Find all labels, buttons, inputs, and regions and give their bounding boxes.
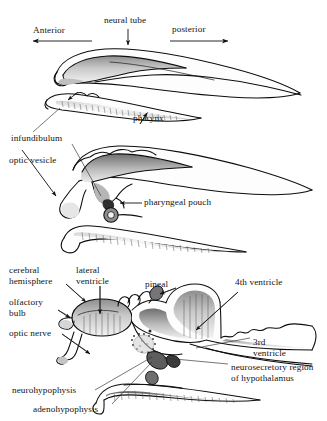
label-3rd-ventricle-line1: 3rd xyxy=(253,337,266,348)
label-neurosecretory-line1: neurosecretory region xyxy=(231,362,313,373)
label-cerebral-hemisphere-line2: hemisphere xyxy=(9,276,52,287)
label-optic-vesicle: optic vesicle xyxy=(9,155,56,166)
label-optic-nerve: optic nerve xyxy=(9,328,51,339)
label-lateral-ventricle-line1: lateral xyxy=(76,265,100,276)
label-neurosecretory-line2: of hypothalamus xyxy=(231,373,294,384)
label-pineal: pineal xyxy=(145,279,168,290)
label-posterior: posterior xyxy=(172,24,206,35)
label-neurohypophysis: neurohypophysis xyxy=(12,385,76,396)
label-cerebral-hemisphere-line1: cerebral xyxy=(9,265,39,276)
label-pharyngeal-pouch: pharyngeal pouch xyxy=(144,197,211,208)
panel-1-drawing xyxy=(33,29,301,132)
label-3rd-ventricle-line2: ventricle xyxy=(253,348,286,359)
label-infundibulum: infundibulum xyxy=(11,133,62,144)
label-olfactory-bulb-line1: olfactory xyxy=(9,297,43,308)
label-pharynx: pharynx xyxy=(133,113,164,124)
label-lateral-ventricle-line2: ventricle xyxy=(76,276,109,287)
label-4th-ventricle: 4th ventricle xyxy=(235,277,282,288)
label-olfactory-bulb-line2: bulb xyxy=(9,308,26,319)
embryology-figure: Anterior neural tube posterior pharynx i… xyxy=(0,0,327,421)
label-anterior: Anterior xyxy=(33,25,65,36)
label-neural-tube: neural tube xyxy=(104,15,146,26)
label-adenohypophysis: adenohypophysis xyxy=(33,404,98,415)
